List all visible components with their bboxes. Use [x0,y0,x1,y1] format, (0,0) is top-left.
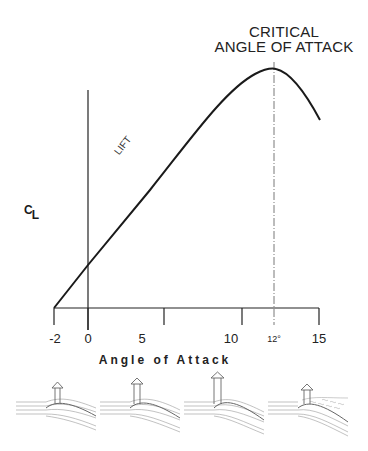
airfoil-2 [100,378,180,432]
airfoil-4 [268,384,348,436]
chart-title-line2: ANGLE OF ATTACK [200,39,368,54]
airfoil-3 [184,372,264,434]
y-axis-label: CL [24,203,40,220]
chart-title-line1: CRITICAL [200,24,368,39]
airfoil-1 [16,382,96,430]
x-tick-label: 5 [138,331,145,346]
lift-chart [0,0,368,451]
x-tick-label: 15 [312,331,326,346]
lift-arrow-icon [301,384,313,404]
x-axis-ticks [54,308,319,330]
airfoil-illustrations [16,372,348,436]
lift-arrow-icon [211,372,224,404]
x-tick-label: 0 [84,331,91,346]
x-tick-label: 10 [224,331,238,346]
x-tick-label: 12° [267,334,281,344]
x-axis-label: Angle of Attack [90,353,240,367]
lift-curve [54,69,320,308]
lift-arrow-icon [52,382,63,404]
x-tick-label: -2 [49,331,61,346]
